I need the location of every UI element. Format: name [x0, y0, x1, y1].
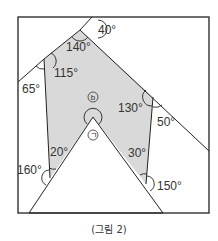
angle-label-140: 140° [66, 40, 91, 54]
angle-label-20: 20° [50, 145, 68, 159]
marker-b-label: b [91, 93, 96, 102]
angle-label-50: 50° [157, 115, 175, 129]
angle-label-65: 65° [22, 82, 40, 96]
angle-label-130: 130° [118, 101, 143, 115]
arc-150 [147, 176, 154, 191]
angle-label-115: 115° [54, 66, 78, 80]
arc-160 [42, 170, 49, 185]
marker-giyeok-label: ㄱ [90, 131, 97, 140]
geometry-figure: 40° 140° 115° 65° 130° 50° 20° 30° 160° … [0, 0, 218, 241]
angle-label-150: 150° [157, 179, 182, 193]
arc-65 [36, 66, 44, 69]
angle-label-30: 30° [128, 146, 146, 160]
angle-label-40: 40° [98, 23, 116, 37]
angle-label-160: 160° [17, 163, 42, 177]
figure-caption: (그림 2) [91, 224, 126, 235]
